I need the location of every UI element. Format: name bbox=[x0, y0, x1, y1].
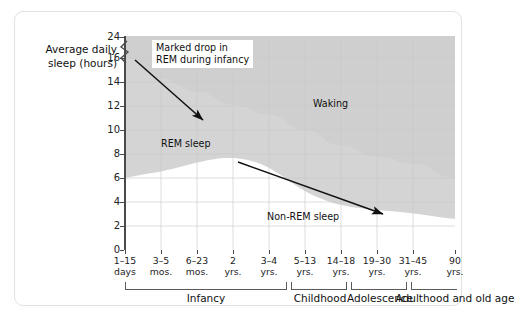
bracket-adolescence bbox=[351, 282, 407, 290]
x-tick-5 bbox=[305, 250, 306, 254]
x-tick-4 bbox=[269, 250, 270, 254]
y-tick-label-12: 12 bbox=[94, 100, 120, 111]
x-tick-label-9: 90yrs. bbox=[433, 255, 477, 278]
x-tick-label-line2: mos. bbox=[150, 266, 173, 277]
y-axis-break-icon bbox=[118, 40, 132, 64]
region-label-waking: Waking bbox=[313, 98, 348, 109]
bracket-childhood bbox=[291, 282, 347, 290]
y-tick-0 bbox=[120, 250, 124, 251]
x-tick-label-line2: yrs. bbox=[446, 266, 463, 277]
y-tick-label-24: 24 bbox=[94, 31, 120, 42]
x-tick-label-line1: 90 bbox=[449, 255, 461, 266]
stage-label-infancy: Infancy bbox=[125, 292, 287, 304]
x-tick-label-line2: yrs. bbox=[224, 266, 241, 277]
y-tick-10 bbox=[120, 130, 124, 131]
y-tick-label-0: 0 bbox=[94, 244, 120, 255]
y-tick-8 bbox=[120, 154, 124, 155]
x-tick-1 bbox=[161, 250, 162, 254]
stage-label-adulthood: Adulthood and old age bbox=[375, 292, 519, 304]
y-tick-14 bbox=[120, 82, 124, 83]
x-tick-8 bbox=[413, 250, 414, 254]
chart-card: Average daily sleep (hours) bbox=[14, 11, 462, 306]
y-tick-2 bbox=[120, 226, 124, 227]
x-tick-6 bbox=[341, 250, 342, 254]
x-tick-label-line1: 1–15 bbox=[114, 255, 136, 266]
x-tick-label-line1: 5–13 bbox=[294, 255, 316, 266]
region-label-non-rem-sleep: Non-REM sleep bbox=[267, 211, 339, 222]
x-tick-label-line1: 31–45 bbox=[399, 255, 427, 266]
y-tick-label-8: 8 bbox=[94, 148, 120, 159]
x-tick-0 bbox=[125, 250, 126, 254]
x-tick-label-line2: yrs. bbox=[332, 266, 349, 277]
y-tick-label-6: 6 bbox=[94, 172, 120, 183]
life-stage-brackets: Infancy Childhood Adolescence Adulthood … bbox=[125, 282, 457, 316]
y-tick-24 bbox=[120, 37, 124, 38]
y-tick-label-16: 16 bbox=[94, 52, 120, 63]
annotation-callout: Marked drop in REM during infancy bbox=[152, 40, 253, 68]
x-tick-label-line1: 3–4 bbox=[261, 255, 277, 266]
y-tick-label-4: 4 bbox=[94, 196, 120, 207]
bracket-infancy bbox=[125, 282, 287, 290]
x-tick-label-line2: yrs. bbox=[260, 266, 277, 277]
x-tick-label-8: 31–45yrs. bbox=[391, 255, 435, 278]
x-tick-9 bbox=[455, 250, 456, 254]
y-tick-label-14: 14 bbox=[94, 76, 120, 87]
annotation-line-1: Marked drop in bbox=[156, 42, 228, 53]
x-tick-label-line1: 6–23 bbox=[186, 255, 208, 266]
x-tick-7 bbox=[377, 250, 378, 254]
y-tick-6 bbox=[120, 178, 124, 179]
x-tick-2 bbox=[197, 250, 198, 254]
x-tick-label-line1: 3–5 bbox=[153, 255, 169, 266]
y-tick-12 bbox=[120, 106, 124, 107]
y-tick-4 bbox=[120, 202, 124, 203]
x-tick-label-line1: 19–30 bbox=[363, 255, 391, 266]
x-tick-label-line1: 2 bbox=[230, 255, 236, 266]
y-tick-16 bbox=[120, 58, 124, 59]
bracket-adulthood bbox=[411, 282, 457, 290]
x-tick-label-line2: yrs. bbox=[404, 266, 421, 277]
x-tick-3 bbox=[233, 250, 234, 254]
region-label-rem-sleep: REM sleep bbox=[161, 138, 211, 149]
x-tick-label-line2: mos. bbox=[186, 266, 209, 277]
x-tick-label-line1: 14–18 bbox=[327, 255, 355, 266]
annotation-line-2: REM during infancy bbox=[156, 54, 249, 65]
x-tick-label-line2: days bbox=[114, 266, 136, 277]
y-tick-label-10: 10 bbox=[94, 124, 120, 135]
x-tick-label-line2: yrs. bbox=[296, 266, 313, 277]
y-tick-label-2: 2 bbox=[94, 220, 120, 231]
x-tick-label-line2: yrs. bbox=[368, 266, 385, 277]
y-axis-line bbox=[124, 36, 126, 250]
